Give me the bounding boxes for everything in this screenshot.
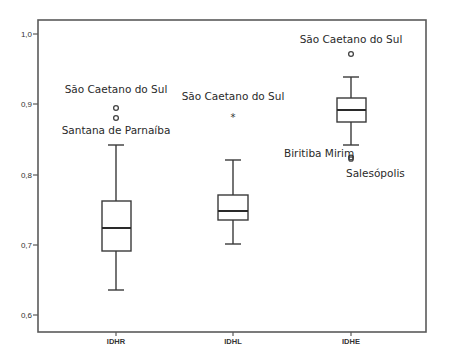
y-tick-label: 0,9 — [21, 100, 33, 109]
y-tick-label: 0,8 — [21, 171, 33, 180]
y-tick-label: 0,7 — [21, 241, 33, 250]
y-tick-label: 0,6 — [21, 311, 33, 320]
outlier-label: Salesópolis — [346, 167, 405, 179]
iqr-box — [218, 195, 248, 220]
extreme-outlier-star: * — [231, 112, 236, 123]
box-idhl: * — [218, 112, 248, 244]
iqr-box — [102, 201, 131, 251]
outlier-label: São Caetano do Sul — [182, 90, 285, 102]
outlier-label: Biritiba Mirim — [284, 147, 354, 159]
outlier-label: São Caetano do Sul — [300, 33, 403, 45]
x-axis: IDHR IDHL IDHE — [107, 332, 360, 346]
x-tick-label-idhl: IDHL — [224, 337, 242, 346]
outlier-label: Santana de Parnaíba — [62, 124, 171, 136]
outlier-marker — [114, 106, 119, 111]
outlier-label: São Caetano do Sul — [65, 83, 168, 95]
outlier-marker — [349, 52, 354, 57]
x-tick-label-idhr: IDHR — [107, 337, 126, 346]
y-axis: 1,0 0,9 0,8 0,7 0,6 — [21, 30, 38, 320]
outlier-marker — [114, 116, 119, 121]
box-idhe — [337, 52, 366, 162]
boxplot-chart: 1,0 0,9 0,8 0,7 0,6 IDHR IDHL IDHE * — [0, 0, 449, 364]
x-tick-label-idhe: IDHE — [342, 337, 360, 346]
y-tick-label: 1,0 — [21, 30, 33, 39]
